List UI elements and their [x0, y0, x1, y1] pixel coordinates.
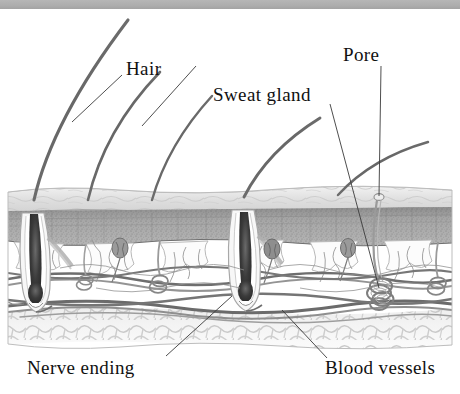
- leader-line-hair: [72, 75, 122, 122]
- hair-shaft: [244, 118, 320, 197]
- label-pore: Pore: [343, 45, 379, 65]
- hair-shaft: [152, 96, 212, 200]
- skin-diagram-figure: Hair Pore Sweat gland Nerve ending Blood…: [0, 0, 460, 394]
- label-hair: Hair: [126, 59, 161, 79]
- label-blood-vessels: Blood vessels: [325, 358, 435, 378]
- skin-block: [0, 180, 460, 355]
- label-sweat-gland: Sweat gland: [213, 85, 311, 105]
- hair-shaft: [88, 72, 160, 200]
- skin-cross-section-illustration: [0, 0, 460, 394]
- leader-line-pore: [379, 66, 381, 196]
- label-nerve-ending: Nerve ending: [27, 358, 135, 378]
- hair-shaft: [34, 20, 128, 200]
